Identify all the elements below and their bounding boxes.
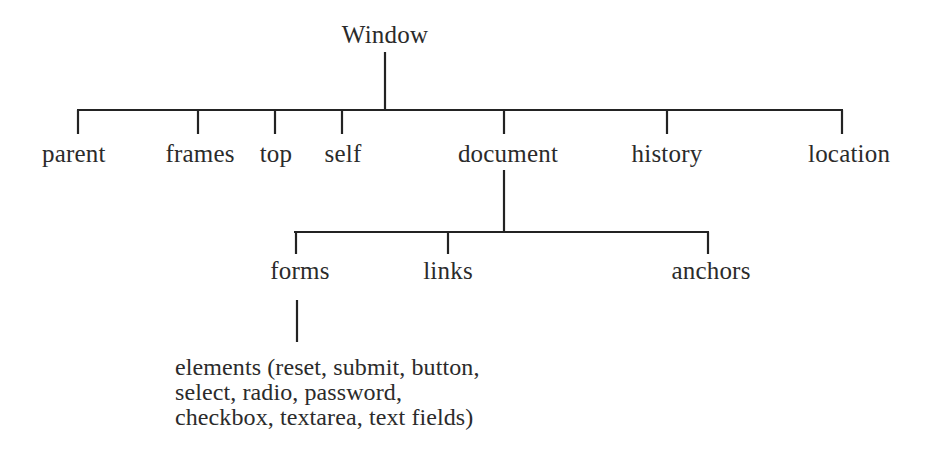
node-parent: parent (42, 141, 106, 166)
node-links: links (423, 258, 473, 283)
node-elements-line-1: elements (reset, submit, button, (175, 355, 479, 380)
node-top: top (260, 141, 293, 166)
node-document: document (458, 141, 558, 166)
node-self: self (325, 141, 362, 166)
node-elements-line-2: select, radio, password, (175, 380, 402, 405)
node-history: history (632, 141, 703, 166)
tree-connectors (0, 0, 941, 458)
node-frames: frames (165, 141, 234, 166)
node-elements-line-3: checkbox, textarea, text fields) (175, 405, 473, 430)
node-forms: forms (270, 258, 329, 283)
diagram-canvas: Window parent f (0, 0, 941, 458)
node-location: location (808, 141, 890, 166)
node-anchors: anchors (671, 258, 750, 283)
